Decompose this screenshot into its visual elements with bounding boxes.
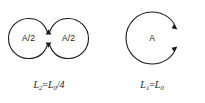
lower-gap-arrowhead-icon <box>172 47 178 53</box>
right-single-circle-group: A <box>126 12 177 64</box>
single-loop-area-label: A <box>149 33 155 43</box>
right-loop-area-label: A/2 <box>62 33 75 43</box>
physics-diagram-figure: A/2 A/2 A L2=L0/4 L1=L0 <box>0 0 205 103</box>
right-caption: L1=L0 <box>139 79 164 91</box>
left-loop-area-label: A/2 <box>22 33 35 43</box>
left-caption: L2=L0/4 <box>32 79 64 91</box>
diagram-canvas: A/2 A/2 A L2=L0/4 L1=L0 <box>0 0 205 103</box>
upper-gap-arrowhead-icon <box>172 24 178 30</box>
left-caption-suffix: /4 <box>56 79 65 90</box>
right-caption-value-subscript: 0 <box>160 84 164 91</box>
left-figure-eight-group: A/2 A/2 <box>9 19 89 59</box>
